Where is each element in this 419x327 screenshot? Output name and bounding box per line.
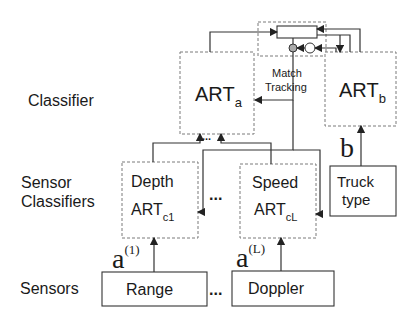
match-node-icon [289,44,297,52]
level-label-classifier: Classifier [28,92,94,109]
level-label-classifiers: Classifiers [21,193,95,210]
truck-label-1: Truck [337,173,374,190]
ellipsis-sensor-classifiers: ... [209,186,222,203]
speed-title: Speed [252,174,298,191]
truck-label-2: type [342,191,370,208]
match-tracking-label-1: Match [272,67,302,79]
vigilance-node-icon [305,43,315,53]
match-tracking-label-2: Tracking [265,81,307,93]
signal-b: b [340,132,354,163]
signal-a1: a(1) [112,242,140,274]
doppler-label: Doppler [248,280,305,297]
level-label-sensor: Sensor [21,174,72,191]
depth-title: Depth [131,173,174,190]
map-field-module [258,22,326,56]
map-field-box [277,26,317,38]
artmap-diagram: Classifier Sensor Classifiers Sensors AR… [0,0,419,327]
ellipsis-sensors: ... [209,281,222,298]
signal-aL: a(L) [236,241,265,273]
range-label: Range [126,281,173,298]
level-label-sensors: Sensors [20,280,79,297]
ellipsis-arta: ... [202,130,211,142]
